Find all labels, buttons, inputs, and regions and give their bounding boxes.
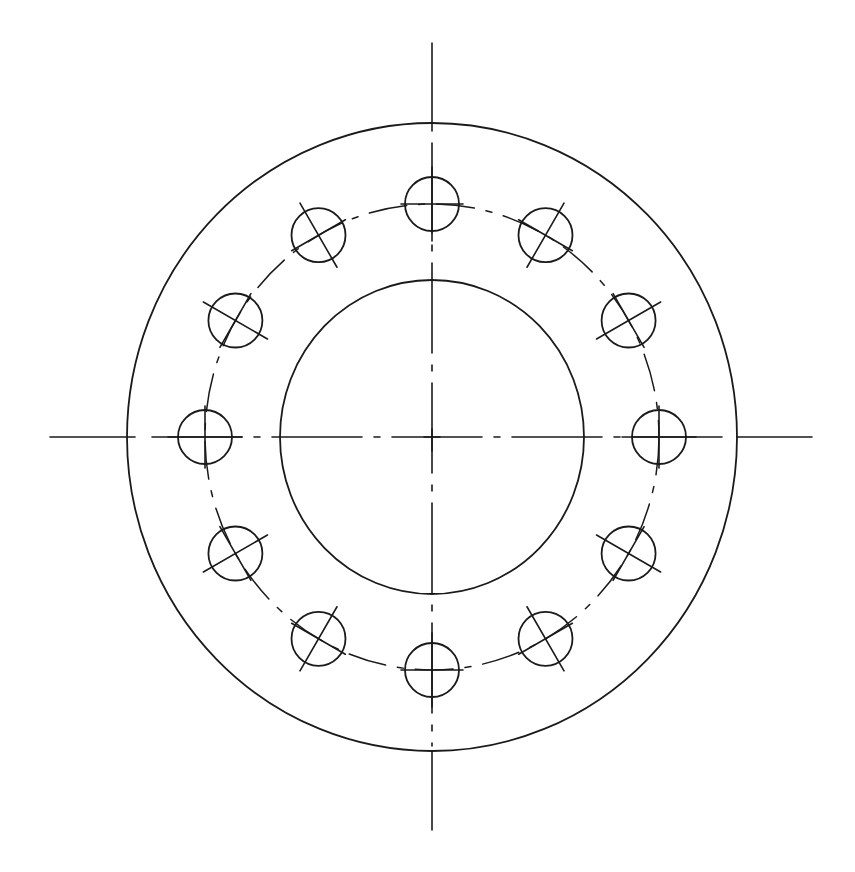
main-centerlines xyxy=(50,43,812,830)
bolt-hole-12 xyxy=(292,203,346,267)
bolt-hole-tangent-centerline xyxy=(613,294,644,348)
bolt-hole-5 xyxy=(597,527,661,581)
bolt-hole-4 xyxy=(622,406,696,468)
bolt-hole-3 xyxy=(597,294,661,348)
bolt-hole-11 xyxy=(203,294,267,348)
bolt-hole-1 xyxy=(401,167,463,241)
bolt-hole-tangent-centerline xyxy=(292,220,346,251)
bolt-hole-6 xyxy=(519,607,573,671)
bolt-hole-tangent-centerline xyxy=(519,220,573,251)
bolt-hole-7 xyxy=(401,633,463,707)
bolt-hole-tangent-centerline xyxy=(613,527,644,581)
bolt-hole-tangent-centerline xyxy=(220,527,251,581)
bolt-hole-tangent-centerline xyxy=(220,294,251,348)
bolt-hole-9 xyxy=(203,527,267,581)
bolt-hole-10 xyxy=(168,406,242,468)
bolt-hole-tangent-centerline xyxy=(519,623,573,654)
bolt-hole-8 xyxy=(292,607,346,671)
bolt-hole-tangent-centerline xyxy=(292,623,346,654)
bolt-hole-2 xyxy=(519,203,573,267)
flange-drawing xyxy=(0,0,855,872)
